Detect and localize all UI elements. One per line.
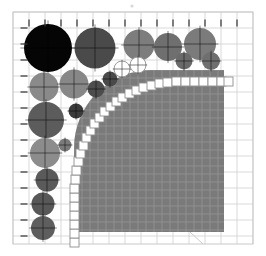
boundary-cell bbox=[71, 175, 80, 184]
top-dot-marker bbox=[130, 4, 133, 7]
boundary-cell bbox=[70, 193, 79, 202]
boundary-cell bbox=[190, 77, 199, 86]
boundary-cell bbox=[199, 77, 208, 86]
boundary-cell bbox=[70, 229, 79, 238]
boundary-cell bbox=[224, 77, 233, 86]
boundary-cell bbox=[72, 166, 81, 175]
boundary-cell bbox=[181, 77, 190, 86]
figure-canvas bbox=[0, 0, 266, 256]
boundary-cell bbox=[70, 211, 79, 220]
boundary-cell bbox=[70, 202, 79, 211]
figure-svg bbox=[0, 0, 266, 256]
boundary-cell bbox=[163, 78, 172, 87]
boundary-cell bbox=[172, 77, 181, 86]
boundary-cell bbox=[70, 220, 79, 229]
boundary-cell bbox=[70, 238, 79, 247]
boundary-cell bbox=[208, 77, 217, 86]
boundary-cell bbox=[70, 184, 79, 193]
